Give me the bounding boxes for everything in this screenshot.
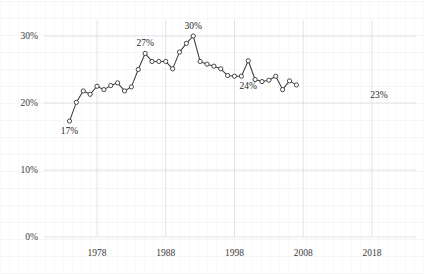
data-point-marker: [219, 67, 223, 71]
x-tick-label-1988: 1988: [156, 248, 175, 258]
data-point-marker: [205, 62, 209, 66]
x-tick-label-1978: 1978: [88, 248, 107, 258]
data-point-marker: [88, 92, 92, 96]
data-point-marker: [81, 89, 85, 93]
data-point-marker: [150, 59, 154, 63]
line-chart: 0%10%20%30% 19781988199820082018 17%27%3…: [0, 0, 424, 274]
gridlines-vertical: [97, 20, 372, 237]
data-point-marker: [74, 100, 78, 104]
data-point-marker: [157, 59, 161, 63]
data-point-marker: [129, 85, 133, 89]
y-tick-label-20pct: 20%: [21, 98, 39, 108]
series-path: [70, 36, 297, 121]
data-point-marker: [136, 67, 140, 71]
point-annotation-24pct: 24%: [240, 81, 258, 91]
point-annotation-17pct: 17%: [61, 126, 79, 136]
data-point-marker: [95, 84, 99, 88]
series-line-share: [70, 36, 297, 121]
data-point-marker: [164, 59, 168, 63]
data-point-marker: [177, 50, 181, 54]
y-tick-label-0pct: 0%: [25, 232, 38, 242]
data-point-marker: [67, 119, 71, 123]
data-point-marker: [267, 78, 271, 82]
data-point-marker: [281, 88, 285, 92]
data-point-marker: [198, 59, 202, 63]
data-point-marker: [102, 88, 106, 92]
data-point-marker: [226, 73, 230, 77]
data-point-marker: [246, 59, 250, 63]
data-point-marker: [122, 89, 126, 93]
x-tick-label-1998: 1998: [225, 248, 244, 258]
data-point-marker: [260, 79, 264, 83]
data-point-marker: [212, 64, 216, 68]
chart-page: 0%10%20%30% 19781988199820082018 17%27%3…: [0, 0, 424, 274]
y-tick-label-30pct: 30%: [21, 31, 39, 41]
data-point-marker: [287, 79, 291, 83]
data-point-marker: [232, 74, 236, 78]
data-point-annotations: 17%27%30%24%23%: [61, 21, 388, 136]
x-tick-label-2018: 2018: [363, 248, 382, 258]
data-point-marker: [143, 51, 147, 55]
data-point-marker: [191, 34, 195, 38]
data-point-marker: [274, 74, 278, 78]
point-annotation-23pct: 23%: [370, 90, 388, 100]
data-point-marker: [239, 74, 243, 78]
point-annotation-30pct: 30%: [185, 21, 203, 31]
y-tick-label-10pct: 10%: [21, 165, 39, 175]
data-point-marker: [171, 67, 175, 71]
x-tick-label-2008: 2008: [294, 248, 313, 258]
point-annotation-27pct: 27%: [136, 38, 154, 48]
data-point-marker: [184, 41, 188, 45]
data-point-marker: [294, 83, 298, 87]
gridlines-horizontal: [44, 36, 416, 237]
data-point-marker: [116, 81, 120, 85]
x-axis-tick-labels: 19781988199820082018: [88, 248, 382, 258]
y-axis-tick-labels: 0%10%20%30%: [21, 31, 39, 242]
data-point-marker: [109, 83, 113, 87]
